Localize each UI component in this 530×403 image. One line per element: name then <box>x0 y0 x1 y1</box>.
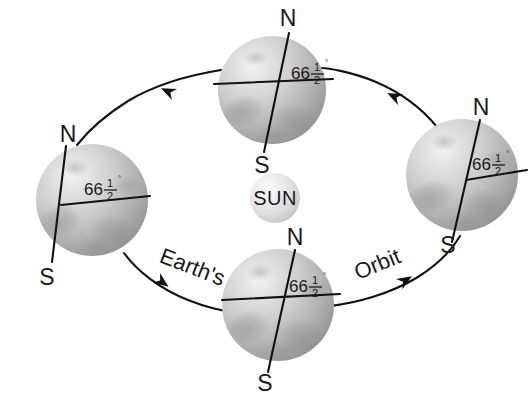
earth-top-angle-whole: 66 <box>291 64 310 83</box>
earth-bottom-angle-degree-symbol: ° <box>323 271 326 280</box>
earth-bottom-north-label: N <box>287 224 304 250</box>
earth-left-south-label: S <box>39 264 54 290</box>
earth-top-north-label: N <box>280 5 297 31</box>
earth-top-angle-degree-symbol: ° <box>325 58 328 67</box>
earth-left-angle-degree-symbol: ° <box>118 174 121 183</box>
earth-bottom-angle-numerator: 1 <box>312 274 318 286</box>
earth-right-north-label: N <box>473 94 490 120</box>
diagram-canvas: Earth's Orbit SUN N S 66 <box>0 0 530 403</box>
earth-top-south-label: S <box>254 152 269 178</box>
earth-left-angle-numerator: 1 <box>107 177 113 189</box>
sun-label: SUN <box>253 187 297 209</box>
arrow-bottom-left-icon <box>153 273 172 292</box>
earth-bottom-south-label: S <box>257 370 272 396</box>
orbit-word-orbit: Orbit <box>350 244 404 285</box>
earth-top: N S 66 1 2 ° <box>214 5 335 178</box>
earth-right-angle-numerator: 1 <box>495 152 501 164</box>
earth-top-angle-denominator: 2 <box>314 74 320 86</box>
earth-right-angle-degree-symbol: ° <box>506 149 509 158</box>
orbit-arc-top-right <box>322 68 437 127</box>
earth-bottom-angle-whole: 66 <box>289 277 308 296</box>
sun: SUN <box>250 173 300 223</box>
earth-bottom-angle-denominator: 2 <box>312 287 318 299</box>
orbit-arc-top-left <box>77 70 221 145</box>
earth-right-angle-whole: 66 <box>472 155 491 174</box>
orbit-word-earths: Earth's <box>157 243 229 291</box>
earth-left-north-label: N <box>60 121 77 147</box>
earth-right-angle-denominator: 2 <box>495 165 501 177</box>
earth-top-angle-numerator: 1 <box>314 61 320 73</box>
earth-left-angle-whole: 66 <box>84 180 103 199</box>
earth-right-south-label: S <box>440 232 455 258</box>
earth-left-angle-denominator: 2 <box>107 190 113 202</box>
earth-bottom: N S 66 1 2 ° <box>217 224 341 396</box>
earth-right: N S 66 1 2 ° <box>401 94 527 258</box>
earth-orbit-diagram: Earth's Orbit SUN N S 66 <box>0 0 530 403</box>
